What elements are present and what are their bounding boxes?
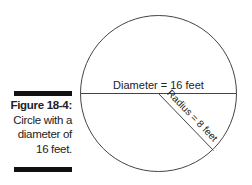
circle-diagram: Diameter = 16 feet Radius = 8 feet: [0, 0, 252, 185]
diameter-label: Diameter = 16 feet: [113, 79, 204, 91]
radius-label: Radius = 8 feet: [165, 87, 220, 143]
